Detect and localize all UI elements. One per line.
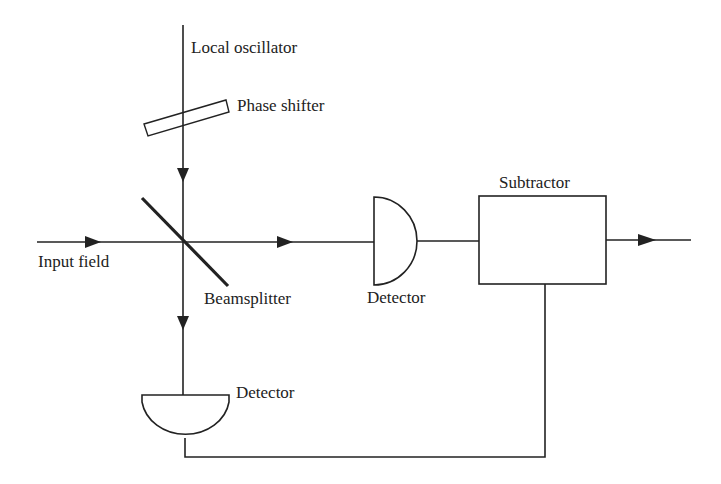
arrow-right-icon (85, 236, 101, 248)
phase-shifter (144, 100, 229, 136)
detector-bottom-to-subtractor-wire (185, 284, 545, 457)
arrow-down-icon (177, 168, 189, 182)
label-input-field: Input field (38, 253, 109, 270)
label-detector-right: Detector (367, 289, 426, 306)
label-detector-bottom: Detector (236, 384, 295, 401)
label-phase-shifter: Phase shifter (237, 97, 324, 114)
homodyne-diagram (0, 0, 721, 484)
detector-right (374, 197, 417, 285)
detector-bottom (142, 395, 229, 434)
arrow-right-icon (638, 234, 656, 246)
arrow-down-icon (177, 316, 189, 330)
label-beamsplitter: Beamsplitter (204, 290, 291, 307)
label-local-oscillator: Local oscillator (191, 39, 297, 56)
arrow-right-icon (277, 236, 293, 248)
subtractor-box (479, 196, 606, 284)
label-subtractor: Subtractor (499, 174, 570, 191)
